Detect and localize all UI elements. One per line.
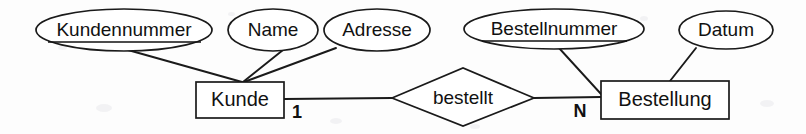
entity-label-kunde: Kunde xyxy=(211,88,269,110)
er-diagram-canvas: Kundennummer Name Adresse Bestellnummer … xyxy=(0,0,806,134)
connector-kundennummer-kunde xyxy=(128,50,242,82)
connector-bestellnummer-bestellung xyxy=(559,48,601,94)
entity-kunde[interactable]: Kunde xyxy=(196,82,284,118)
connector-datum-bestellung xyxy=(670,48,696,81)
relationship-label-bestellt: bestellt xyxy=(433,87,494,108)
attribute-label-kundennummer: Kundennummer xyxy=(56,19,192,40)
attribute-label-adresse: Adresse xyxy=(342,19,412,40)
attribute-adresse[interactable]: Adresse xyxy=(324,9,430,51)
connector-adresse-kunde xyxy=(244,48,336,82)
attribute-label-datum: Datum xyxy=(698,19,754,40)
connector-kunde-bestellt xyxy=(284,98,392,99)
connector-name-kunde xyxy=(243,50,283,82)
relationship-bestellt[interactable]: bestellt xyxy=(392,68,534,126)
cardinality-label-n: N xyxy=(574,101,587,121)
attribute-kundennummer[interactable]: Kundennummer xyxy=(36,9,212,51)
attribute-name[interactable]: Name xyxy=(228,9,318,51)
entity-bestellung[interactable]: Bestellung xyxy=(601,81,729,119)
entity-label-bestellung: Bestellung xyxy=(618,88,711,110)
cardinality-label-one: 1 xyxy=(292,102,302,122)
attribute-label-bestellnummer: Bestellnummer xyxy=(491,18,618,39)
attribute-datum[interactable]: Datum xyxy=(679,11,773,49)
attribute-bestellnummer[interactable]: Bestellnummer xyxy=(464,9,644,49)
connector-bestellt-bestellung xyxy=(534,97,601,98)
attribute-label-name: Name xyxy=(248,19,299,40)
er-diagram-svg: Kundennummer Name Adresse Bestellnummer … xyxy=(0,0,806,134)
